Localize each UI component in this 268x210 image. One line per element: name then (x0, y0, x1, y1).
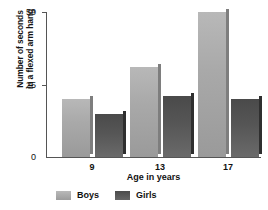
y-axis-line (46, 12, 47, 158)
x-tick-label-9: 9 (89, 162, 94, 172)
plot-area: 50 25 0 (46, 12, 261, 158)
y-axis-title-line-1: Number of seconds (15, 10, 25, 88)
legend-label-boys: Boys (77, 190, 99, 200)
x-tick-label-13: 13 (155, 162, 165, 172)
bar-side-shade (158, 64, 161, 154)
y-tick-25: 25 (42, 85, 46, 86)
legend-item-girls: Girls (115, 190, 157, 200)
bar-face (198, 12, 226, 157)
bar-girls-13 (163, 96, 191, 157)
bar-side-shade (259, 96, 262, 154)
y-tick-label-50: 50 (26, 8, 36, 17)
bar-side-shade (226, 9, 229, 154)
y-tick-label-25: 25 (26, 81, 36, 90)
bar-chart: Number of seconds in a flexed arm hang 5… (0, 0, 268, 210)
bar-boys-17 (198, 12, 226, 157)
x-axis-line (46, 157, 261, 158)
y-tick-label-0: 0 (31, 153, 36, 162)
x-tick-label-17: 17 (223, 162, 233, 172)
y-axis-title-line-2: in a flexed arm hang (25, 9, 35, 89)
bar-face (62, 99, 90, 157)
bar-girls-17 (231, 99, 259, 157)
bar-face (130, 67, 158, 157)
bar-side-shade (191, 93, 194, 154)
bar-boys-13 (130, 67, 158, 157)
legend-item-boys: Boys (56, 190, 99, 200)
y-axis-title: Number of seconds in a flexed arm hang (9, 0, 41, 114)
bar-side-shade (90, 96, 93, 154)
bar-side-shade (123, 111, 126, 155)
bar-face (95, 114, 123, 158)
bar-face (231, 99, 259, 157)
bar-face (163, 96, 191, 157)
legend-label-girls: Girls (136, 190, 157, 200)
y-tick-50: 50 (42, 12, 46, 13)
legend-swatch-boys-icon (56, 191, 71, 200)
bar-boys-9 (62, 99, 90, 157)
bar-girls-9 (95, 114, 123, 158)
legend-swatch-girls-icon (115, 191, 130, 200)
x-axis-title: Age in years (46, 172, 261, 182)
legend: Boys Girls (56, 190, 157, 200)
